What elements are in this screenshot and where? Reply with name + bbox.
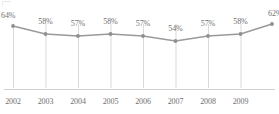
series-markers (11, 22, 274, 43)
data-point (141, 34, 145, 38)
x-tick-label-2005: 2005 (103, 97, 119, 107)
data-point (44, 32, 48, 36)
data-point (11, 24, 15, 28)
x-tick-label-2009: 2009 (233, 97, 249, 107)
data-point (109, 32, 113, 36)
x-tick-label-2008: 2008 (200, 97, 216, 107)
chart-canvas (0, 0, 279, 92)
data-point (239, 32, 243, 36)
data-point (270, 22, 274, 26)
x-tick-label-2006: 2006 (135, 97, 151, 107)
data-point (76, 34, 80, 38)
x-tick-label-2007: 2007 (168, 97, 184, 107)
x-tick-label-2002: 2002 (5, 97, 21, 107)
data-point (206, 34, 210, 38)
x-tick-label-2004: 2004 (70, 97, 86, 107)
chart-plot-area (0, 0, 279, 92)
x-axis-labels: 20022003200420052006200720082009 (0, 92, 279, 114)
line-chart: 64%58%57%58%57%54%57%58%62% 200220032004… (0, 0, 279, 114)
x-tick-label-2003: 2003 (38, 97, 54, 107)
series-line (13, 24, 272, 41)
data-point (174, 39, 178, 43)
